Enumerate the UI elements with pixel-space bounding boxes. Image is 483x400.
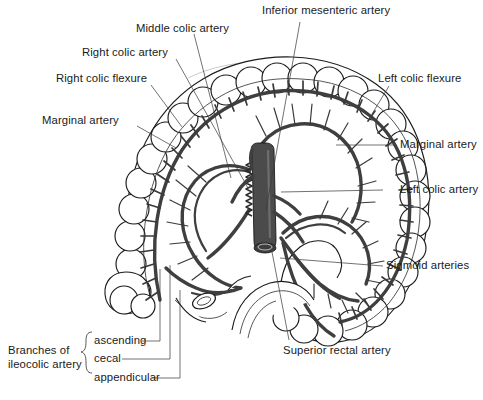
label-marginal-artery-right: Marginal artery <box>400 138 477 151</box>
label-left-colic-artery: Left colic artery <box>400 183 478 196</box>
leader-ascending-branch <box>142 269 160 341</box>
ileocolic-brace <box>81 332 92 373</box>
label-branch-ascending: ascending <box>94 334 146 347</box>
leader-sigmoid-arteries <box>280 258 383 266</box>
branches-line-1: Branches of <box>8 344 82 358</box>
leader-superior-rectal-artery <box>272 252 289 340</box>
branches-line-2: ileocolic artery <box>8 358 82 372</box>
leader-right-colic-artery <box>176 59 248 188</box>
label-middle-colic-artery: Middle colic artery <box>136 22 229 35</box>
leader-right-colic-flexure <box>151 85 182 127</box>
label-left-colic-flexure: Left colic flexure <box>378 72 461 85</box>
label-right-colic-artery: Right colic artery <box>82 46 168 59</box>
label-branches-of-ileocolic-artery: Branches of ileocolic artery <box>8 344 82 372</box>
figure-canvas: Inferior mesenteric artery Middle colic … <box>0 0 483 400</box>
leader-marginal-artery-left <box>137 126 176 148</box>
leader-inferior-mesenteric-artery <box>266 22 300 210</box>
label-sigmoid-arteries: Sigmoid arteries <box>386 259 469 272</box>
leader-left-colic-artery <box>281 190 383 192</box>
label-branch-appendicular: appendicular <box>94 371 160 384</box>
label-marginal-artery-left: Marginal artery <box>42 114 119 127</box>
leader-middle-colic-artery <box>194 34 231 178</box>
leader-left-colic-flexure <box>372 86 389 114</box>
label-right-colic-flexure: Right colic flexure <box>56 72 147 85</box>
leader-appendicular-branch <box>152 290 180 378</box>
label-inferior-mesenteric-artery: Inferior mesenteric artery <box>262 4 390 17</box>
label-superior-rectal-artery: Superior rectal artery <box>283 344 391 357</box>
leader-lines <box>0 0 483 400</box>
label-branch-cecal: cecal <box>94 352 121 365</box>
